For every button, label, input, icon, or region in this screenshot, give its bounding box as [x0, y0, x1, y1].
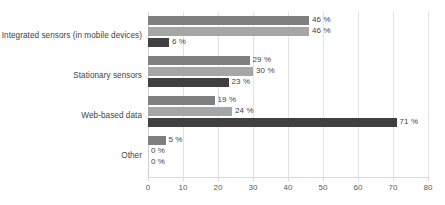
category-label-3: Other	[0, 151, 142, 160]
x-tick-label-20: 20	[206, 183, 230, 192]
x-tick-label-0: 0	[136, 183, 160, 192]
category-label-2: Web-based data	[0, 111, 142, 120]
bar-row: 46 %	[148, 27, 428, 36]
bar-value-label-series-2-3: 0 %	[151, 146, 165, 156]
bar-chart: Integrated sensors (in mobile devices) S…	[0, 0, 445, 205]
bar-row: 0 %	[148, 158, 428, 167]
x-tick-label-50: 50	[311, 183, 335, 192]
tick-mark-70	[393, 177, 394, 181]
bar-series-1-3[interactable]	[148, 136, 166, 145]
bar-series-2-2[interactable]	[148, 107, 232, 116]
plot-area: 46 %46 %6 %29 %30 %23 %19 %24 %71 %5 %0 …	[148, 12, 428, 177]
bar-series-2-0[interactable]	[148, 27, 309, 36]
bar-series-1-1[interactable]	[148, 56, 250, 65]
bar-row: 0 %	[148, 147, 428, 156]
bar-group-3: 5 %0 %0 %	[148, 136, 428, 167]
bar-row: 46 %	[148, 16, 428, 25]
tick-mark-20	[218, 177, 219, 181]
tick-mark-40	[288, 177, 289, 181]
bar-series-1-0[interactable]	[148, 16, 309, 25]
bar-row: 19 %	[148, 96, 428, 105]
bar-value-label-series-2-2: 24 %	[235, 106, 254, 116]
bar-row: 29 %	[148, 56, 428, 65]
bar-value-label-series-2-0: 46 %	[312, 26, 331, 36]
bar-value-label-series-1-0: 46 %	[312, 15, 331, 25]
x-tick-label-80: 80	[416, 183, 440, 192]
bar-value-label-series-3-1: 23 %	[232, 77, 251, 87]
bar-value-label-series-1-3: 5 %	[169, 135, 183, 145]
bar-row: 30 %	[148, 67, 428, 76]
bar-row: 5 %	[148, 136, 428, 145]
bar-value-label-series-3-0: 6 %	[172, 37, 186, 47]
bar-row: 6 %	[148, 38, 428, 47]
bar-value-label-series-2-1: 30 %	[256, 66, 275, 76]
bar-series-3-0[interactable]	[148, 38, 169, 47]
bar-series-2-1[interactable]	[148, 67, 253, 76]
x-tick-label-10: 10	[171, 183, 195, 192]
bar-row: 23 %	[148, 78, 428, 87]
bar-group-1: 29 %30 %23 %	[148, 56, 428, 87]
bar-series-3-1[interactable]	[148, 78, 229, 87]
x-tick-label-60: 60	[346, 183, 370, 192]
bar-series-3-2[interactable]	[148, 118, 397, 127]
bar-row: 71 %	[148, 118, 428, 127]
tick-mark-60	[358, 177, 359, 181]
bar-value-label-series-1-1: 29 %	[253, 55, 272, 65]
x-tick-label-30: 30	[241, 183, 265, 192]
bar-series-1-2[interactable]	[148, 96, 215, 105]
bar-value-label-series-1-2: 19 %	[218, 95, 237, 105]
tick-mark-0	[148, 177, 149, 181]
bar-value-label-series-3-3: 0 %	[151, 157, 165, 167]
bar-value-label-series-3-2: 71 %	[400, 117, 419, 127]
tick-mark-80	[428, 177, 429, 181]
tick-mark-50	[323, 177, 324, 181]
bar-group-2: 19 %24 %71 %	[148, 96, 428, 127]
x-tick-label-70: 70	[381, 183, 405, 192]
category-label-0: Integrated sensors (in mobile devices)	[0, 31, 142, 40]
tick-mark-30	[253, 177, 254, 181]
bar-group-0: 46 %46 %6 %	[148, 16, 428, 47]
x-tick-label-40: 40	[276, 183, 300, 192]
tick-mark-10	[183, 177, 184, 181]
gridline-80	[428, 12, 429, 177]
category-label-1: Stationary sensors	[0, 71, 142, 80]
bar-row: 24 %	[148, 107, 428, 116]
